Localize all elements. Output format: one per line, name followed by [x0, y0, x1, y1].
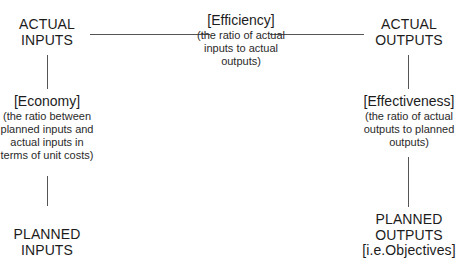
effectiveness-desc-line1: (the ratio of actual — [356, 110, 462, 123]
efficiency-label: [Efficiency] — [176, 12, 306, 29]
effectiveness-desc-line3: outputs) — [356, 136, 462, 149]
effectiveness-label: [Effectiveness] — [356, 93, 462, 110]
effectiveness-connector-bottom — [408, 157, 409, 207]
effectiveness-desc-line2: outputs to planned — [356, 123, 462, 136]
actual-inputs-line1: ACTUAL — [2, 17, 92, 33]
economy-desc-line1: (the ratio between — [0, 110, 97, 123]
relation-economy: [Economy] (the ratio between planned inp… — [0, 93, 97, 163]
effectiveness-connector-top — [408, 55, 409, 89]
economy-desc-line2: planned inputs and — [0, 123, 97, 136]
economy-desc-line3: actual inputs in — [0, 136, 97, 149]
node-planned-outputs: PLANNED OUTPUTS [i.e.Objectives] — [352, 212, 465, 259]
relation-efficiency: [Efficiency] (the ratio of actual inputs… — [176, 12, 306, 68]
actual-outputs-line2: OUTPUTS — [360, 33, 458, 49]
relation-effectiveness: [Effectiveness] (the ratio of actual out… — [356, 93, 462, 149]
economy-label: [Economy] — [0, 93, 97, 110]
node-planned-inputs: PLANNED INPUTS — [2, 227, 92, 258]
planned-outputs-line2: OUTPUTS — [352, 228, 465, 244]
planned-inputs-line1: PLANNED — [2, 227, 92, 243]
efficiency-desc-line2: inputs to actual — [176, 42, 306, 55]
economy-connector-top — [47, 55, 48, 89]
actual-inputs-line2: INPUTS — [2, 33, 92, 49]
node-actual-outputs: ACTUAL OUTPUTS — [360, 17, 458, 48]
planned-inputs-line2: INPUTS — [2, 243, 92, 259]
actual-outputs-line1: ACTUAL — [360, 17, 458, 33]
economy-connector-bottom — [47, 176, 48, 206]
efficiency-desc-line1: (the ratio of actual — [176, 29, 306, 42]
planned-outputs-line1: PLANNED — [352, 212, 465, 228]
planned-outputs-line3: [i.e.Objectives] — [352, 243, 465, 259]
efficiency-desc-line3: outputs) — [176, 55, 306, 68]
economy-desc-line4: terms of unit costs) — [0, 149, 97, 162]
node-actual-inputs: ACTUAL INPUTS — [2, 17, 92, 48]
